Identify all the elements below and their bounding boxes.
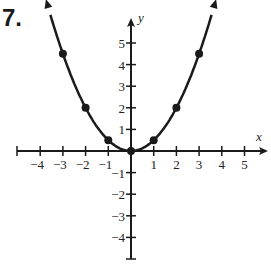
- x-tick-label: −2: [76, 157, 90, 172]
- data-point: [195, 50, 203, 58]
- x-tick-label: 4: [219, 157, 226, 172]
- y-tick-label: 2: [119, 101, 126, 116]
- x-tick-label: −1: [98, 157, 112, 172]
- data-point: [59, 50, 67, 58]
- y-tick-label: −2: [111, 187, 125, 202]
- y-tick-label: 4: [119, 58, 126, 73]
- curve-arrow-icon: [45, 0, 53, 9]
- data-point: [150, 136, 158, 144]
- x-tick-label: 2: [173, 157, 180, 172]
- parabola-graph: −4−3−2−112345 54321−1−2−3−4 x y: [0, 0, 271, 264]
- data-point: [127, 147, 135, 155]
- data-point: [104, 136, 112, 144]
- y-axis-label: y: [136, 10, 144, 25]
- y-ticks: 54321−1−2−3−4: [111, 36, 136, 245]
- curve-arrow-icon: [210, 0, 218, 9]
- x-tick-label: −4: [30, 157, 44, 172]
- y-tick-label: 3: [119, 79, 126, 94]
- y-tick-label: 1: [119, 122, 126, 137]
- x-tick-label: 3: [196, 157, 203, 172]
- y-tick-label: 5: [119, 36, 126, 51]
- data-point: [82, 104, 90, 112]
- data-point: [172, 104, 180, 112]
- y-tick-label: −3: [111, 209, 125, 224]
- x-axis-label: x: [255, 129, 262, 144]
- x-tick-label: −3: [53, 157, 67, 172]
- x-tick-label: 1: [150, 157, 157, 172]
- x-tick-label: 5: [241, 157, 248, 172]
- y-tick-label: −4: [111, 230, 125, 245]
- y-tick-label: −1: [111, 166, 125, 181]
